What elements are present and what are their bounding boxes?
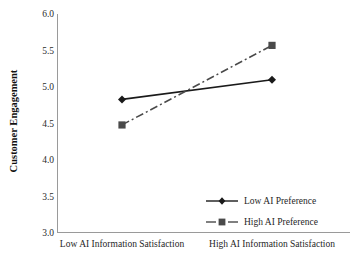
chart-figure: Customer Engagement 6.05.55.04.54.03.53.… [0, 0, 357, 270]
series-line [122, 45, 272, 125]
chart-legend: Low AI Preference High AI Preference [205, 190, 350, 232]
y-tick-label: 3.0 [28, 228, 54, 238]
legend-item-high-ai-preference: High AI Preference [205, 211, 350, 232]
data-point-marker [118, 95, 126, 103]
data-point-marker [268, 42, 275, 49]
legend-item-low-ai-preference: Low AI Preference [205, 190, 350, 211]
y-axis-title-text: Customer Engagement [8, 70, 19, 173]
data-point-marker [118, 121, 125, 128]
legend-key-dashed-square-icon [205, 215, 239, 229]
y-tick-label: 4.0 [28, 155, 54, 165]
data-point-marker [268, 76, 276, 84]
y-tick-label: 3.5 [28, 192, 54, 202]
y-axis-tick-labels: 6.05.55.04.54.03.53.0 [26, 0, 54, 270]
x-tick-label: Low AI Information Satisfaction [60, 239, 184, 249]
legend-label-low-ai-preference: Low AI Preference [239, 196, 316, 206]
series-line [122, 80, 272, 100]
y-axis-title: Customer Engagement [2, 8, 24, 234]
x-tick-label: High AI Information Satisfaction [209, 239, 335, 249]
legend-key-solid-diamond-icon [205, 194, 239, 208]
y-tick-label: 4.5 [28, 119, 54, 129]
y-tick-label: 5.5 [28, 46, 54, 56]
x-axis-tick-labels: Low AI Information SatisfactionHigh AI I… [57, 239, 357, 255]
y-tick-label: 6.0 [28, 9, 54, 19]
y-tick-label: 5.0 [28, 82, 54, 92]
legend-label-high-ai-preference: High AI Preference [239, 217, 318, 227]
